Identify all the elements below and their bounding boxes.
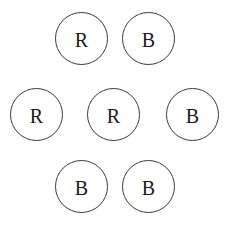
circle-cluster-diagram: RBRRBBB xyxy=(0,0,231,225)
circle-node-label: B xyxy=(186,106,199,126)
circle-node-label: R xyxy=(107,106,120,126)
circle-node-label: R xyxy=(30,106,43,126)
circle-node-bottom-left: B xyxy=(55,160,108,213)
circle-node-label: B xyxy=(142,178,155,198)
circle-node-label: B xyxy=(75,178,88,198)
circle-node-middle-left: R xyxy=(10,88,63,141)
circle-node-label: R xyxy=(75,30,88,50)
circle-node-top-right: B xyxy=(122,12,175,65)
circle-node-bottom-right: B xyxy=(122,160,175,213)
circle-node-label: B xyxy=(142,30,155,50)
circle-node-middle-center: R xyxy=(87,88,140,141)
circle-node-middle-right: B xyxy=(166,88,219,141)
circle-node-top-left: R xyxy=(55,12,108,65)
